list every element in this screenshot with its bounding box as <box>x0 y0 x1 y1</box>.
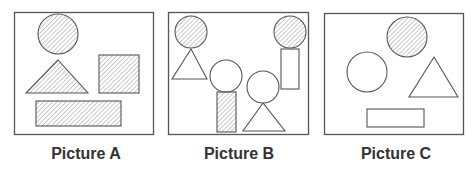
hatched-rect-shape <box>36 101 121 126</box>
hatched-circle-shape <box>38 14 78 54</box>
open-rect-shape <box>281 49 299 89</box>
open-triangle-shape <box>409 57 458 97</box>
picture-c-frame-group <box>325 14 464 135</box>
open-triangle-shape <box>243 103 285 131</box>
picture-b-caption: Picture B <box>169 145 309 163</box>
hatched-circle-shape <box>175 16 207 48</box>
picture-b-frame-group <box>169 13 309 135</box>
open-triangle-shape <box>172 49 207 79</box>
hatched-rect-shape <box>99 55 139 93</box>
picture-c-caption: Picture C <box>326 145 466 163</box>
hatched-rect-shape <box>217 92 236 132</box>
hatched-circle-shape <box>274 16 306 48</box>
hatched-circle-shape <box>387 17 427 57</box>
open-circle-shape <box>347 52 387 92</box>
picture-a-frame-group <box>15 13 154 135</box>
open-circle-shape <box>210 60 242 92</box>
picture-a-caption: Picture A <box>16 145 156 163</box>
open-circle-shape <box>247 71 279 103</box>
hatched-triangle-shape <box>26 60 88 93</box>
open-rect-shape <box>367 109 424 127</box>
